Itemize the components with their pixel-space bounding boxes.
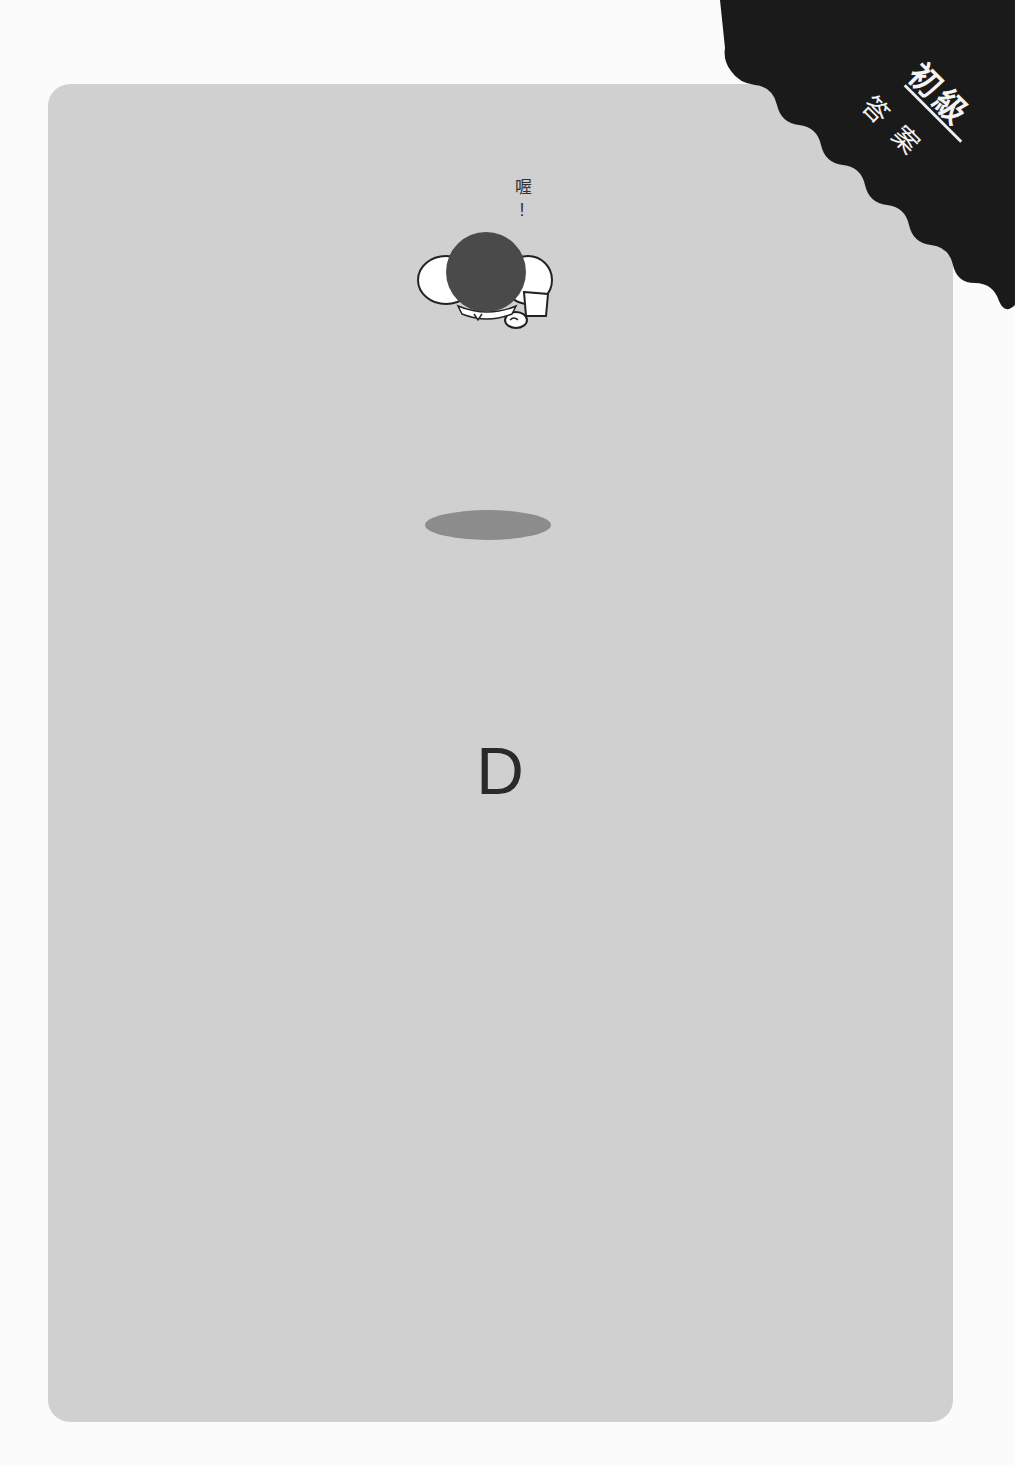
speech-word: 喔 [514, 178, 531, 197]
speech-exclamation: 喔 ! [507, 178, 537, 219]
speech-mark: ! [519, 201, 524, 219]
answer-letter: D [460, 738, 540, 804]
shadow-ellipse [425, 510, 551, 540]
person-top-view-icon [414, 232, 558, 336]
corner-tag-badge [710, 0, 1015, 320]
